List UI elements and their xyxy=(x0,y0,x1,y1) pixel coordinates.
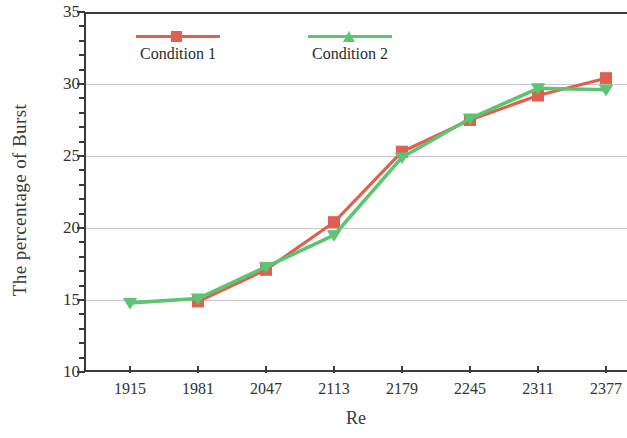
y-axis-tick-labels: 101520253035 xyxy=(26,0,80,438)
plot-area xyxy=(84,12,627,372)
legend-swatch-square-icon xyxy=(136,28,220,44)
x-axis-title: Re xyxy=(85,408,627,429)
x-axis-tick-labels: 19151981204721132179224523112377 xyxy=(0,380,627,404)
y-axis-tick-label: 20 xyxy=(42,218,80,238)
legend-entry-2[interactable]: Condition 2 xyxy=(290,28,410,63)
x-axis-tick-label: 1981 xyxy=(182,380,214,398)
y-axis-tick-label: 10 xyxy=(42,362,80,382)
x-axis-tick-label: 2245 xyxy=(454,380,486,398)
x-axis-tick-label: 2179 xyxy=(386,380,418,398)
data-point-marker xyxy=(601,73,612,84)
legend-marker-square-icon xyxy=(171,31,182,42)
legend-label: Condition 1 xyxy=(140,45,216,63)
y-axis-tick-label: 25 xyxy=(42,146,80,166)
data-point-marker xyxy=(329,217,340,228)
series-line-2 xyxy=(130,88,606,303)
x-axis-tick-label: 2047 xyxy=(250,380,282,398)
legend-label: Condition 2 xyxy=(312,45,388,63)
y-axis-tick-label: 30 xyxy=(42,74,80,94)
series-line-1 xyxy=(198,78,606,301)
x-axis-tick-label: 1915 xyxy=(114,380,146,398)
legend-swatch-triangle-icon xyxy=(308,28,392,44)
series-layer xyxy=(84,12,627,372)
x-axis-tick-label: 2113 xyxy=(318,380,349,398)
y-axis-tick-label: 15 xyxy=(42,290,80,310)
legend-marker-triangle-icon xyxy=(343,31,355,42)
x-axis-tick-label: 2377 xyxy=(590,380,622,398)
line-chart: The percentage of Burst 101520253035 191… xyxy=(0,0,627,438)
y-axis-tick-label: 35 xyxy=(42,2,80,22)
legend-entry-1[interactable]: Condition 1 xyxy=(118,28,238,63)
x-axis-tick-label: 2311 xyxy=(522,380,553,398)
chart-legend: Condition 1Condition 2 xyxy=(118,28,410,63)
